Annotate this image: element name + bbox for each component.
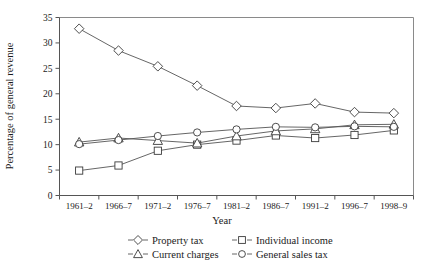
marker-circle [115,136,122,143]
legend-item: General sales tax [232,249,328,260]
marker-circle [272,123,279,130]
x-tick-label: 1981–2 [223,201,250,211]
data-series-layer [74,24,398,174]
chart-figure: 05101520253035 1961–21966–71971–21976–71… [0,0,430,269]
y-axis-ticks: 05101520253035 [43,13,60,201]
x-tick-label: 1966–7 [105,201,133,211]
y-tick-label: 25 [43,64,53,74]
marker-diamond [310,99,320,109]
y-tick-label: 20 [43,89,53,99]
x-tick-label: 1998–9 [380,201,408,211]
y-tick-label: 0 [48,191,53,201]
marker-square [154,147,161,154]
legend-item: Individual income [232,235,333,246]
chart-legend: Property taxIndividual incomeCurrent cha… [128,235,333,260]
y-tick-label: 30 [43,38,53,48]
marker-circle [233,126,240,133]
marker-diamond [350,107,360,117]
x-tick-label: 1976–7 [184,201,212,211]
marker-diamond [134,236,143,245]
y-tick-label: 5 [48,165,53,175]
marker-diamond [232,101,242,111]
marker-diamond [192,81,202,91]
marker-diamond [114,46,124,56]
marker-square [239,237,246,244]
marker-square [76,167,83,174]
y-axis-title: Percentage of general revenue [4,42,15,169]
series-line [79,29,394,113]
y-tick-label: 10 [43,140,53,150]
y-tick-label: 35 [43,13,53,23]
legend-item: Property tax [128,235,204,246]
marker-diamond [153,62,163,72]
legend-item: Current charges [128,249,219,260]
legend-label: Current charges [152,249,219,260]
marker-circle [154,132,161,139]
marker-circle [76,141,83,148]
marker-square [312,134,319,141]
marker-circle [390,123,397,130]
x-tick-label: 1986–7 [262,201,290,211]
series-diamond [74,24,398,118]
y-tick-label: 15 [43,115,53,125]
x-axis-title: Year [212,215,232,226]
marker-circle [194,129,201,136]
marker-circle [312,124,319,131]
legend-label: Individual income [256,235,333,246]
legend-label: Property tax [152,235,204,246]
marker-circle [351,123,358,130]
marker-triangle [134,250,143,258]
marker-square [115,162,122,169]
legend-label: General sales tax [256,249,328,260]
marker-circle [239,251,246,258]
x-tick-label: 1971–2 [144,201,171,211]
line-chart: 05101520253035 1961–21966–71971–21976–71… [0,0,430,269]
x-axis-ticks: 1961–21966–71971–21976–71981–21986–71991… [60,196,414,211]
x-tick-label: 1996–7 [341,201,369,211]
marker-diamond [389,108,399,118]
marker-diamond [271,103,281,113]
marker-square [351,131,358,138]
x-tick-label: 1991–2 [302,201,329,211]
marker-diamond [74,24,84,34]
x-tick-label: 1961–2 [66,201,93,211]
